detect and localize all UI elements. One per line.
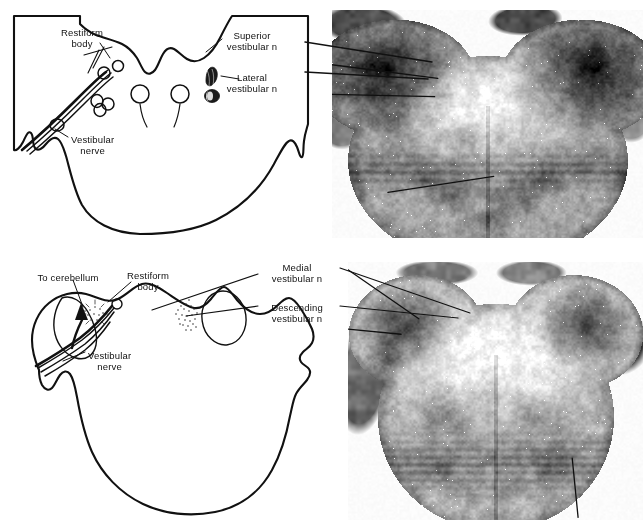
label-line-1: Restiform: [127, 270, 169, 281]
upper-nuclei-outlines: [50, 61, 189, 132]
label-superior-vestibular-n: Superior vestibular n: [227, 30, 277, 52]
label-restiform-body-lower: Restiform body: [127, 270, 169, 292]
descending-vestibular-nucleus-oval: [198, 288, 249, 348]
label-vestibular-nerve-lower: Vestibular nerve: [88, 350, 131, 372]
label-vestibular-nerve-upper: Vestibular nerve: [71, 134, 114, 156]
label-line-1: Medial: [272, 262, 322, 273]
figure-page: Restiform body Vestibular nerve Superior…: [0, 0, 644, 527]
label-line-1: Superior: [227, 30, 277, 41]
superior-vestibular-nucleus-mark: [206, 67, 217, 86]
upper-midline-stems: [140, 104, 180, 127]
label-to-cerebellum: To cerebellum: [37, 272, 98, 283]
label-line-1: Descending: [271, 302, 323, 313]
label-line-1: Vestibular: [88, 350, 131, 361]
label-line-2: nerve: [88, 361, 131, 372]
label-medial-vestibular-n: Medial vestibular n: [272, 262, 322, 284]
label-line-2: vestibular n: [271, 313, 323, 324]
label-line-1: Restiform: [61, 27, 103, 38]
label-line-2: body: [127, 281, 169, 292]
label-line-2: vestibular n: [227, 41, 277, 52]
label-line-1: Vestibular: [71, 134, 114, 145]
lateral-vestibular-nucleus-mark: [205, 90, 220, 103]
label-line-1: Lateral: [227, 72, 277, 83]
label-restiform-body-upper: Restiform body: [61, 27, 103, 49]
label-lateral-vestibular-n: Lateral vestibular n: [227, 72, 277, 94]
label-line-2: vestibular n: [227, 83, 277, 94]
label-line-1: To cerebellum: [37, 272, 98, 283]
label-line-2: body: [61, 38, 103, 49]
label-line-2: nerve: [71, 145, 114, 156]
upper-photo-leader-lines: [305, 42, 432, 79]
label-descending-vestibular-n: Descending vestibular n: [271, 302, 323, 324]
label-line-2: vestibular n: [272, 273, 322, 284]
